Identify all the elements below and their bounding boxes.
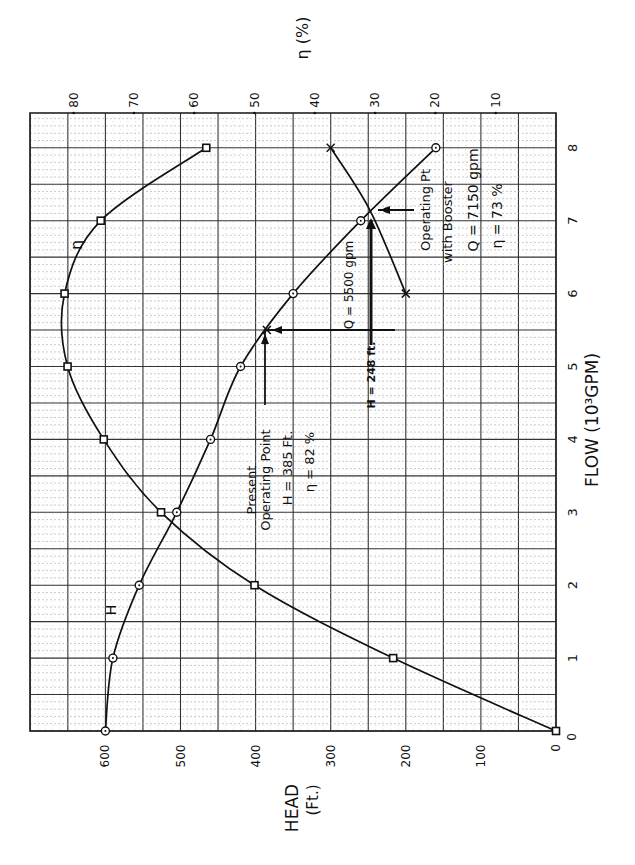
origin-head-label: 0	[549, 744, 563, 752]
efficiency-tick-label: 10	[489, 92, 503, 107]
present-label-3: H = 385 Ft.	[280, 431, 295, 506]
q-5500-label: Q = 5500 gpm	[342, 241, 356, 329]
present-label-1: Present	[244, 466, 259, 515]
efficiency-tick-label: 50	[248, 92, 262, 107]
booster-label-3: Q = 7150 gpm	[465, 148, 481, 251]
efficiency-data-point	[203, 144, 210, 151]
origin-flow-label: 0	[565, 733, 579, 741]
booster-operating-point-annotation: Operating Pt with Booster Q = 7150 gpm η…	[378, 148, 505, 262]
head-tick-label: 100	[474, 745, 488, 768]
flow-tick-label: 6	[565, 289, 580, 297]
pump-performance-chart: 100200300400500600 12345678 102030405060…	[0, 0, 635, 865]
head-axis-title: HEAD	[282, 784, 302, 832]
efficiency-data-point	[97, 217, 104, 224]
flow-tick-label: 8	[565, 144, 580, 152]
head-axis-unit: (Ft.)	[304, 785, 322, 816]
head-tick-label: 300	[324, 745, 338, 768]
flow-tick-label: 3	[565, 508, 580, 516]
booster-label-4: η = 73 %	[489, 183, 505, 248]
flow-tick-label: 5	[565, 362, 580, 370]
head-tick-label: 400	[249, 745, 263, 768]
head-axis-ticks: 100200300400500600	[98, 745, 488, 768]
flow-tick-label: 4	[565, 435, 580, 443]
booster-label-2: with Booster	[440, 180, 455, 262]
efficiency-curve-label: η	[67, 240, 86, 250]
head-tick-label: 200	[399, 745, 413, 768]
eff-tick-mark	[314, 112, 317, 115]
present-label-2: Operating Point	[258, 429, 273, 530]
efficiency-data-point	[100, 436, 107, 443]
efficiency-tick-label: 80	[67, 92, 81, 107]
h-248-label: H = 248 ft.	[365, 341, 378, 408]
flow-tick-label: 2	[565, 581, 580, 589]
efficiency-data-point	[64, 363, 71, 370]
efficiency-tick-label: 40	[308, 92, 322, 107]
eff-tick-mark	[253, 112, 256, 115]
booster-label-1: Operating Pt	[418, 169, 433, 251]
present-label-4: η = 82 %	[302, 432, 317, 492]
efficiency-data-point	[61, 290, 68, 297]
head-curve-label: H	[103, 605, 119, 616]
h-248-annotation: H = 248 ft.	[365, 218, 378, 409]
eff-tick-mark	[374, 112, 377, 115]
head-tick-label: 500	[174, 745, 188, 768]
efficiency-tick-label: 30	[368, 92, 382, 107]
flow-tick-label: 7	[565, 217, 580, 225]
efficiency-axis-ticks: 1020304050607080	[67, 92, 503, 114]
efficiency-data-point	[553, 728, 560, 735]
efficiency-data-point	[251, 582, 258, 589]
head-tick-label: 600	[98, 745, 112, 768]
efficiency-tick-label: 60	[187, 92, 201, 107]
efficiency-tick-label: 20	[428, 92, 442, 107]
flow-tick-label: 1	[565, 654, 580, 662]
efficiency-axis-title: η (%)	[293, 17, 312, 60]
efficiency-data-point	[390, 655, 397, 662]
eff-tick-mark	[494, 112, 497, 115]
flow-axis-ticks: 12345678	[565, 144, 580, 663]
efficiency-tick-label: 70	[127, 92, 141, 107]
eff-tick-mark	[193, 112, 196, 115]
eff-tick-mark	[133, 112, 136, 115]
eff-tick-mark	[434, 112, 437, 115]
eff-tick-mark	[72, 112, 75, 115]
efficiency-data-point	[158, 509, 165, 516]
flow-axis-title: FLOW (10³GPM)	[582, 353, 602, 487]
